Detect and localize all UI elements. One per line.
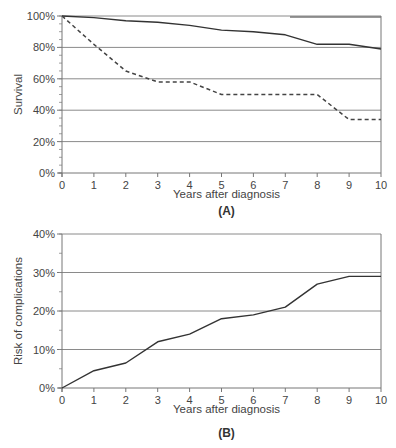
x-tick-label: 2 <box>123 394 129 406</box>
panel-label: (A) <box>218 204 235 218</box>
x-tick-label: 8 <box>314 179 320 191</box>
y-tick-label: 20% <box>33 136 55 148</box>
x-tick-label: 0 <box>59 179 65 191</box>
x-tick-label: 9 <box>346 179 352 191</box>
panel-label: (B) <box>218 426 235 440</box>
x-tick-label: 3 <box>155 179 161 191</box>
x-axis-title: Years after diagnosis <box>173 403 280 415</box>
y-axis-title: Risk of complications <box>12 257 24 365</box>
y-tick-label: 80% <box>33 41 55 53</box>
series-line-solid <box>62 16 381 49</box>
x-axis-title: Years after diagnosis <box>173 188 280 200</box>
y-tick-label: 20% <box>33 305 55 317</box>
x-tick-label: 8 <box>314 394 320 406</box>
figure: 0%20%40%60%80%100%012345678910Years afte… <box>0 0 396 448</box>
y-tick-label: 40% <box>33 228 55 240</box>
y-tick-label: 30% <box>33 267 55 279</box>
chart-panel-b: 0%10%20%30%40%012345678910Years after di… <box>12 228 387 440</box>
chart-panel-a: 0%20%40%60%80%100%012345678910Years afte… <box>12 10 387 218</box>
x-tick-label: 10 <box>375 394 387 406</box>
y-tick-label: 100% <box>27 10 55 22</box>
x-tick-label: 0 <box>59 394 65 406</box>
y-axis-title: Survival <box>12 74 24 115</box>
x-tick-label: 1 <box>91 394 97 406</box>
y-tick-label: 10% <box>33 344 55 356</box>
x-tick-label: 2 <box>123 179 129 191</box>
y-tick-label: 40% <box>33 104 55 116</box>
x-tick-label: 3 <box>155 394 161 406</box>
series-line-risk <box>62 276 381 388</box>
y-tick-label: 0% <box>39 167 55 179</box>
x-tick-label: 1 <box>91 179 97 191</box>
x-tick-label: 7 <box>282 394 288 406</box>
x-tick-label: 9 <box>346 394 352 406</box>
series-line-dashed <box>62 16 381 120</box>
y-tick-label: 0% <box>39 382 55 394</box>
x-tick-label: 10 <box>375 179 387 191</box>
y-tick-label: 60% <box>33 73 55 85</box>
x-tick-label: 7 <box>282 179 288 191</box>
